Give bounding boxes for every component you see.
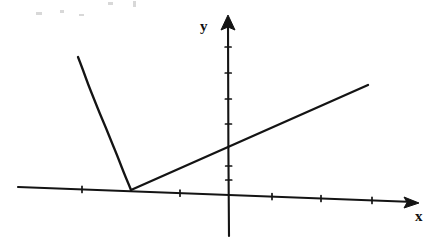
rising-line xyxy=(131,85,368,190)
math-graph-figure: y x xyxy=(0,0,447,242)
scan-speck xyxy=(108,2,113,5)
scan-speck xyxy=(36,12,42,15)
y-axis-group xyxy=(221,15,235,236)
decaying-curve xyxy=(78,57,131,190)
scan-speck xyxy=(133,1,136,7)
graph-canvas xyxy=(0,0,447,242)
y-axis-line xyxy=(228,22,229,236)
x-axis-group xyxy=(18,186,419,208)
scan-speck xyxy=(60,10,64,13)
scan-speck xyxy=(79,14,84,16)
x-axis-line xyxy=(18,187,414,202)
x-axis-label: x xyxy=(415,209,423,224)
y-axis-label: y xyxy=(200,19,208,34)
